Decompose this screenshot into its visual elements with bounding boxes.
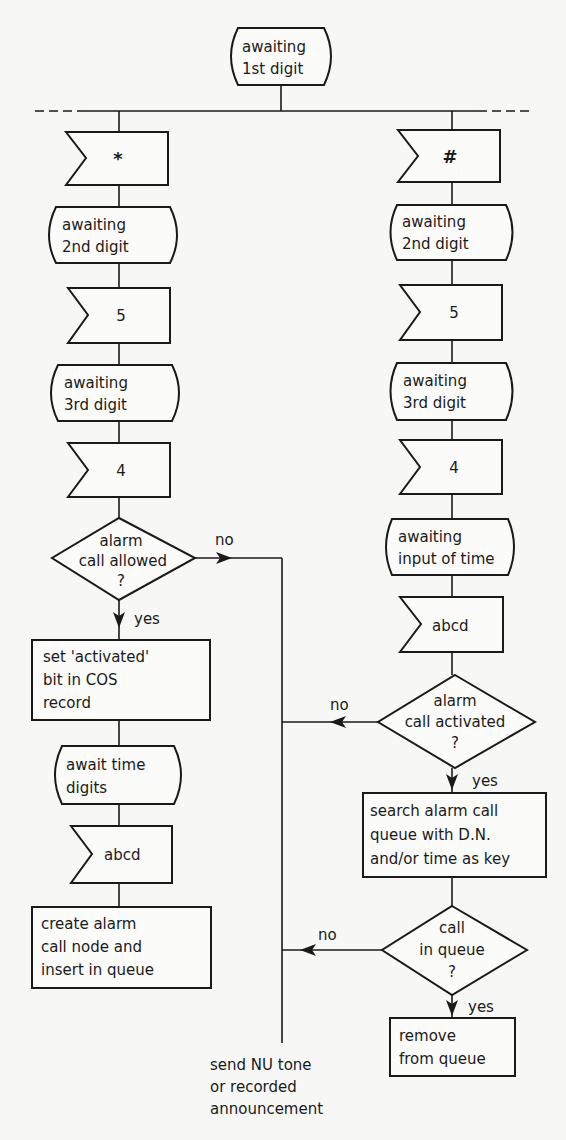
- state-right-awaiting-2nd-digit: awaiting 2nd digit: [391, 205, 513, 260]
- signal-right-abcd: abcd: [400, 597, 503, 652]
- decision-alarm-call-activated: alarm call activated ?: [378, 675, 535, 768]
- yes-label: yes: [134, 610, 160, 628]
- state-await-time-digits: await time digits: [55, 746, 181, 804]
- shape-label: or recorded: [210, 1078, 297, 1096]
- signal-left-5: 5: [68, 288, 170, 343]
- shape-label: digits: [66, 779, 107, 797]
- shape-label: awaiting: [402, 213, 466, 231]
- process-remove-from-queue: remove from queue: [390, 1018, 515, 1076]
- flowchart: awaiting 1st digit * awaiting 2nd digit …: [0, 0, 566, 1140]
- process-search-alarm-call-queue: search alarm call queue with D.N. and/or…: [363, 793, 546, 877]
- yes-label: yes: [468, 998, 494, 1016]
- shape-label: queue with D.N.: [370, 826, 491, 844]
- state-label: awaiting: [242, 38, 306, 56]
- signal-left-4: 4: [68, 443, 170, 497]
- state-left-awaiting-2nd-digit: awaiting 2nd digit: [49, 207, 177, 263]
- output-send-nu-tone: send NU tone or recorded announcement: [210, 1056, 323, 1118]
- shape-label: call activated: [405, 713, 506, 731]
- shape-label: awaiting: [398, 528, 462, 546]
- signal-right-4: 4: [400, 440, 502, 494]
- shape-label: abcd: [104, 846, 140, 864]
- shape-label: record: [43, 694, 91, 712]
- shape-label: 2nd digit: [62, 238, 129, 256]
- shape-label: announcement: [210, 1100, 323, 1118]
- shape-label: 4: [116, 462, 126, 480]
- state-awaiting-1st-digit: awaiting 1st digit: [231, 28, 331, 85]
- process-set-activated-bit: set 'activated' bit in COS record: [32, 640, 210, 720]
- shape-label: ?: [451, 734, 459, 752]
- shape-label: awaiting: [64, 374, 128, 392]
- shape-label: #: [442, 146, 457, 167]
- shape-label: 2nd digit: [402, 235, 469, 253]
- shape-label: 3rd digit: [403, 394, 466, 412]
- shape-label: search alarm call: [370, 802, 498, 820]
- shape-label: awaiting: [62, 216, 126, 234]
- state-label: 1st digit: [242, 60, 303, 78]
- shape-label: input of time: [398, 550, 494, 568]
- shape-label: ?: [117, 572, 125, 590]
- shape-label: 5: [116, 307, 126, 325]
- shape-label: *: [113, 148, 123, 169]
- shape-label: alarm: [99, 532, 142, 550]
- no-label: no: [215, 531, 234, 549]
- shape-label: bit in COS: [43, 671, 118, 689]
- shape-label: alarm: [433, 692, 476, 710]
- shape-label: 5: [449, 304, 459, 322]
- shape-label: call: [439, 919, 465, 937]
- shape-label: awaiting: [403, 372, 467, 390]
- shape-label: ?: [448, 963, 456, 981]
- signal-left-abcd: abcd: [71, 826, 172, 883]
- shape-label: call node and: [41, 938, 142, 956]
- decision-call-in-queue: call in queue ?: [382, 906, 527, 995]
- process-create-alarm-call-node: create alarm call node and insert in que…: [32, 907, 211, 988]
- shape-label: await time: [66, 756, 145, 774]
- shape-label: remove: [399, 1027, 456, 1045]
- shape-label: from queue: [399, 1050, 486, 1068]
- shape-label: send NU tone: [210, 1056, 312, 1074]
- decision-alarm-call-allowed: alarm call allowed ?: [52, 518, 195, 600]
- shape-label: 4: [449, 459, 459, 477]
- signal-hash: #: [398, 130, 500, 182]
- shape-label: abcd: [432, 617, 468, 635]
- yes-label: yes: [472, 772, 498, 790]
- shape-label: insert in queue: [41, 961, 154, 979]
- state-left-awaiting-3rd-digit: awaiting 3rd digit: [51, 365, 179, 421]
- shape-label: 3rd digit: [64, 396, 127, 414]
- shape-label: in queue: [419, 941, 484, 959]
- shape-label: call allowed: [79, 552, 167, 570]
- no-label: no: [330, 696, 349, 714]
- shape-label: and/or time as key: [370, 850, 510, 868]
- signal-star: *: [66, 132, 168, 185]
- signal-right-5: 5: [400, 285, 502, 340]
- shape-label: create alarm: [41, 915, 136, 933]
- state-right-awaiting-3rd-digit: awaiting 3rd digit: [391, 363, 513, 420]
- shape-label: set 'activated': [43, 648, 149, 666]
- state-awaiting-input-of-time: awaiting input of time: [386, 519, 514, 575]
- no-label: no: [318, 926, 337, 944]
